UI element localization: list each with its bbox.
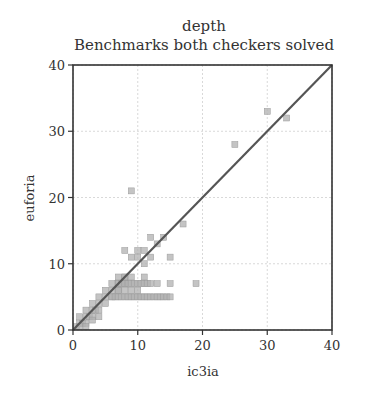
- data-point: [128, 188, 134, 194]
- data-point: [141, 261, 147, 267]
- data-point: [135, 254, 141, 260]
- data-point: [96, 314, 102, 320]
- y-tick-label: 0: [57, 323, 65, 338]
- data-point: [148, 234, 154, 240]
- data-point: [83, 324, 89, 330]
- x-tick-label: 40: [324, 338, 341, 353]
- data-point: [96, 294, 102, 300]
- data-point: [141, 248, 147, 254]
- x-tick-label: 0: [69, 338, 77, 353]
- data-point: [89, 301, 95, 307]
- scatter-chart: depth Benchmarks both checkers solved 01…: [0, 0, 366, 397]
- data-point: [89, 317, 95, 323]
- data-point: [128, 254, 134, 260]
- data-point: [102, 287, 108, 293]
- x-axis-ticks: 010203040: [69, 330, 340, 353]
- data-point: [193, 281, 199, 287]
- y-tick-label: 40: [48, 58, 65, 73]
- y-tick-label: 30: [48, 124, 65, 139]
- data-point: [135, 248, 141, 254]
- data-point: [180, 221, 186, 227]
- data-point: [115, 274, 121, 280]
- y-axis-ticks: 010203040: [48, 58, 73, 338]
- data-point: [167, 294, 173, 300]
- x-tick-label: 20: [194, 338, 211, 353]
- y-axis-label: euforia: [22, 174, 37, 221]
- x-axis-label: ic3ia: [187, 364, 219, 379]
- chart-title: depth: [182, 17, 226, 35]
- data-point: [115, 287, 121, 293]
- data-point: [154, 281, 160, 287]
- y-tick-label: 20: [48, 191, 65, 206]
- x-tick-label: 10: [129, 338, 146, 353]
- data-point: [232, 142, 238, 148]
- data-point: [102, 301, 108, 307]
- data-point: [76, 314, 82, 320]
- data-point: [167, 281, 173, 287]
- data-point: [148, 254, 154, 260]
- chart-subtitle: Benchmarks both checkers solved: [74, 36, 334, 54]
- data-point: [135, 287, 141, 293]
- data-point: [96, 307, 102, 313]
- data-point: [122, 248, 128, 254]
- data-point: [264, 108, 270, 114]
- y-tick-label: 10: [48, 257, 65, 272]
- data-point: [122, 287, 128, 293]
- data-point: [128, 287, 134, 293]
- data-point: [141, 274, 147, 280]
- data-point: [128, 274, 134, 280]
- data-point: [167, 254, 173, 260]
- data-point: [83, 307, 89, 313]
- x-tick-label: 30: [259, 338, 276, 353]
- data-point: [109, 281, 115, 287]
- data-point: [284, 115, 290, 121]
- data-point: [148, 281, 154, 287]
